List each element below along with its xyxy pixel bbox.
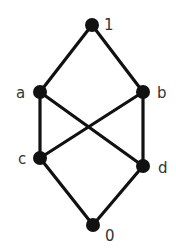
edge-1-b xyxy=(92,25,143,92)
label-0: 0 xyxy=(105,227,115,245)
label-c: c xyxy=(18,150,26,168)
node-b xyxy=(136,85,150,99)
label-a: a xyxy=(16,84,25,102)
node-c xyxy=(33,151,47,165)
label-b: b xyxy=(157,84,167,102)
edge-1-a xyxy=(40,25,92,92)
edge-d-0 xyxy=(93,166,143,225)
node-a xyxy=(33,85,47,99)
hasse-diagram: 1 a b c d 0 xyxy=(0,0,176,251)
label-1: 1 xyxy=(104,16,114,34)
node-d xyxy=(136,159,150,173)
node-1 xyxy=(85,18,99,32)
node-0 xyxy=(86,218,100,232)
label-d: d xyxy=(158,159,168,177)
edge-c-0 xyxy=(40,158,93,225)
edges xyxy=(40,25,143,225)
